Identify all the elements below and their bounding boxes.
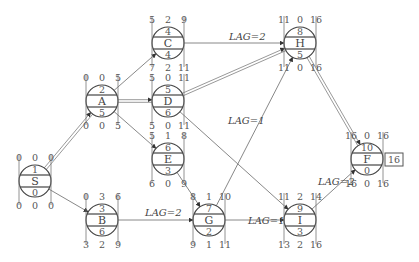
early-finish: 16 [310, 14, 322, 25]
late-finish: 9 [181, 178, 187, 189]
node-C: 4C45297211 [149, 14, 190, 73]
duration-top: 3 [99, 203, 105, 214]
late-finish: 16 [310, 239, 322, 250]
node-bottom: 6 [165, 107, 171, 118]
edge-D-I [180, 112, 288, 210]
early-start: 11 [278, 14, 290, 25]
early-start: 5 [149, 130, 155, 141]
project-duration: 16 [388, 154, 400, 165]
total-float: 0 [165, 72, 171, 83]
late-start: 11 [278, 62, 290, 73]
free-float: 0 [165, 178, 171, 189]
node-bottom: 0 [364, 165, 370, 176]
critical-edge-D-H [183, 51, 286, 96]
early-finish: 0 [48, 152, 54, 163]
lag-label-0: LAG=2 [228, 31, 266, 42]
late-finish: 11 [219, 239, 231, 250]
duration-top: 6 [165, 142, 171, 153]
duration-top: 5 [165, 84, 171, 95]
network-diagram: 1S00000002A50050053B60363294C452972115D6… [0, 0, 419, 262]
node-bottom: 3 [297, 226, 303, 237]
total-float: 1 [206, 191, 212, 202]
node-bottom: 3 [165, 165, 171, 176]
node-B: 3B6036329 [83, 191, 121, 250]
node-bottom: 5 [99, 107, 105, 118]
total-float: 0 [99, 72, 105, 83]
total-float: 2 [165, 14, 171, 25]
early-start: 0 [83, 72, 89, 83]
early-start: 16 [345, 130, 357, 141]
early-start: 8 [190, 191, 196, 202]
early-finish: 6 [115, 191, 121, 202]
early-finish: 8 [181, 130, 187, 141]
project-duration-box: 16 [385, 153, 403, 166]
late-start: 3 [83, 239, 89, 250]
free-float: 2 [297, 239, 303, 250]
node-G: 7G281109111 [190, 191, 231, 250]
early-finish: 9 [181, 14, 187, 25]
free-float: 0 [99, 120, 105, 131]
edge-G-H [216, 57, 292, 206]
node-E: 6E3518609 [149, 130, 187, 189]
node-bottom: 0 [32, 187, 38, 198]
node-S: 1S0000000 [16, 152, 54, 211]
late-finish: 9 [115, 239, 121, 250]
lag-label-2: LAG=2 [144, 207, 182, 218]
duration-top: 8 [297, 26, 303, 37]
node-bottom: 5 [297, 49, 303, 60]
node-bottom: 4 [165, 49, 171, 60]
early-start: 5 [149, 14, 155, 25]
duration-top: 4 [165, 26, 171, 37]
late-finish: 0 [48, 200, 54, 211]
early-start: 11 [278, 191, 290, 202]
total-float: 2 [297, 191, 303, 202]
free-float: 1 [206, 239, 212, 250]
early-finish: 5 [115, 72, 121, 83]
free-float: 0 [297, 62, 303, 73]
early-finish: 16 [377, 130, 389, 141]
node-A: 2A5005005 [83, 72, 121, 131]
total-float: 3 [99, 191, 105, 202]
total-float: 0 [364, 130, 370, 141]
late-finish: 16 [310, 62, 322, 73]
early-start: 5 [149, 72, 155, 83]
early-finish: 14 [310, 191, 322, 202]
node-bottom: 6 [99, 226, 105, 237]
node-bottom: 2 [206, 226, 212, 237]
late-start: 0 [16, 200, 22, 211]
early-start: 0 [16, 152, 22, 163]
total-float: 0 [297, 14, 303, 25]
node-D: 5D650115011 [149, 72, 190, 131]
lag-label-1: LAG=1 [227, 115, 265, 126]
lag-label-4: LAG=2 [317, 176, 355, 187]
late-finish: 5 [115, 120, 121, 131]
duration-top: 10 [361, 142, 373, 153]
late-start: 9 [190, 239, 196, 250]
total-float: 0 [32, 152, 38, 163]
late-start: 6 [149, 178, 155, 189]
duration-top: 2 [99, 84, 105, 95]
duration-top: 9 [297, 203, 303, 214]
lag-labels-layer: LAG=2LAG=1LAG=2LAG=1LAG=2 [144, 31, 355, 226]
early-finish: 10 [219, 191, 231, 202]
late-start: 0 [83, 120, 89, 131]
duration-top: 1 [32, 164, 38, 175]
free-float: 0 [364, 178, 370, 189]
node-H: 8H51101611016 [278, 14, 322, 73]
lag-label-3: LAG=1 [247, 215, 285, 226]
duration-top: 7 [206, 203, 212, 214]
early-finish: 11 [178, 72, 190, 83]
free-float: 2 [99, 239, 105, 250]
early-start: 0 [83, 191, 89, 202]
free-float: 0 [32, 200, 38, 211]
late-start: 13 [278, 239, 290, 250]
total-float: 1 [165, 130, 171, 141]
late-finish: 16 [377, 178, 389, 189]
